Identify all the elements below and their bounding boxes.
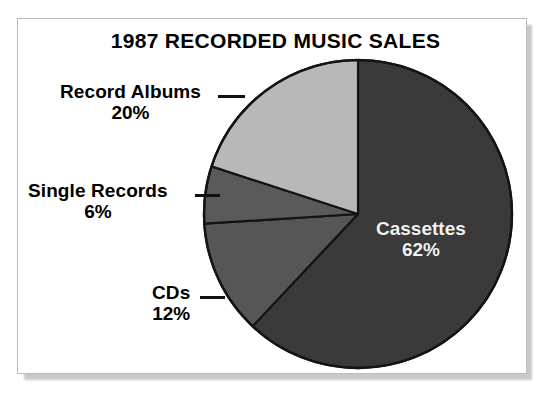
slice-label-cassettes-label: Cassettes <box>376 219 466 239</box>
leader-line-single-records <box>195 194 220 197</box>
callout-cds: CDs 12% <box>152 283 190 324</box>
pie-slice-group <box>204 60 512 368</box>
callout-record-albums-label: Record Albums <box>60 82 201 102</box>
slice-label-cassettes-value: 62% <box>376 240 466 260</box>
callout-single-records-value: 6% <box>28 202 168 222</box>
leader-line-cds <box>200 296 225 299</box>
leader-line-record-albums <box>218 95 245 98</box>
callout-single-records-label: Single Records <box>28 181 168 201</box>
chart-page: 1987 RECORDED MUSIC SALES Record Albums … <box>0 0 551 404</box>
callout-record-albums-value: 20% <box>60 103 201 123</box>
callout-cds-label: CDs <box>152 283 190 303</box>
callout-cds-value: 12% <box>152 304 190 324</box>
callout-single-records: Single Records 6% <box>28 181 168 222</box>
callout-record-albums: Record Albums 20% <box>60 82 201 123</box>
slice-label-cassettes: Cassettes 62% <box>376 219 466 260</box>
